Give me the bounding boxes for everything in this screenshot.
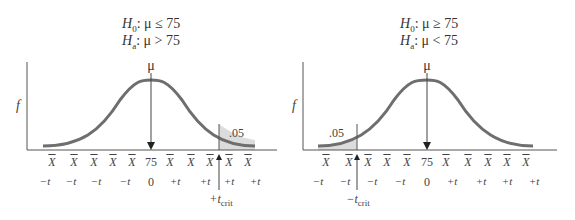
t-label: +t	[224, 175, 234, 187]
mean-arrow-icon	[423, 142, 431, 150]
left-tailed-panel: H0: μ ≥ 75 Ha: μ < 75 f μ .05 X X X X X …	[288, 0, 575, 220]
xbar-label: X	[187, 155, 194, 170]
t-label: +t	[200, 175, 210, 187]
xbar-label: X	[345, 155, 352, 170]
mean-label: μ	[423, 58, 431, 74]
xbar-label: X	[206, 155, 213, 170]
critical-arrow-icon	[354, 154, 360, 160]
xbar-label: X	[128, 155, 135, 170]
t-label: −t	[120, 175, 130, 187]
xbar-label: X	[48, 155, 55, 170]
xbar-label: X	[403, 155, 410, 170]
xbar-label: X	[70, 155, 77, 170]
critical-arrow-icon	[216, 154, 222, 160]
t-label: +t	[476, 175, 486, 187]
t-label: −t	[395, 175, 405, 187]
xbar-label: X	[383, 155, 390, 170]
xbar-label: X	[90, 155, 97, 170]
center-value-label: 75	[145, 155, 157, 170]
xbar-label: X	[166, 155, 173, 170]
xbar-label: X	[364, 155, 371, 170]
alternative-hypothesis: Ha: μ < 75	[400, 33, 458, 51]
alpha-label: .05	[229, 126, 244, 141]
xbar-label: X	[109, 155, 116, 170]
t-label: −t	[40, 175, 50, 187]
alternative-hypothesis: Ha: μ > 75	[122, 33, 180, 51]
t-label: +t	[250, 175, 260, 187]
xbar-label: X	[503, 155, 510, 170]
xbar-label: X	[484, 155, 491, 170]
xbar-label: X	[442, 155, 449, 170]
t-label: −t	[367, 175, 377, 187]
t-label: +t	[502, 175, 512, 187]
t-label: −t	[91, 175, 101, 187]
distribution-curve	[318, 80, 533, 146]
null-hypothesis: H0: μ ≤ 75	[122, 16, 180, 34]
alpha-label: .05	[329, 126, 344, 141]
center-value-label: 75	[421, 155, 433, 170]
y-axis-label: f	[16, 98, 20, 114]
null-hypothesis: H0: μ ≥ 75	[400, 16, 458, 34]
t-zero-label: 0	[424, 175, 430, 190]
t-zero-label: 0	[148, 175, 154, 190]
t-label: +t	[447, 175, 457, 187]
xbar-label: X	[322, 155, 329, 170]
xbar-label: X	[464, 155, 471, 170]
mean-label: μ	[147, 58, 155, 74]
critical-t-label: +tcrit	[209, 192, 232, 208]
t-label: +t	[529, 175, 539, 187]
critical-t-label: −tcrit	[346, 192, 369, 208]
t-label: +t	[170, 175, 180, 187]
t-label: −t	[313, 175, 323, 187]
xbar-label: X	[244, 155, 251, 170]
xbar-label: X	[522, 155, 529, 170]
t-label: −t	[340, 175, 350, 187]
y-axis-label: f	[292, 98, 296, 114]
right-tailed-panel: H0: μ ≤ 75 Ha: μ > 75 f μ .05 X X X X X …	[0, 0, 287, 220]
xbar-label: X	[225, 155, 232, 170]
t-label: −t	[66, 175, 76, 187]
mean-arrow-icon	[147, 142, 155, 150]
